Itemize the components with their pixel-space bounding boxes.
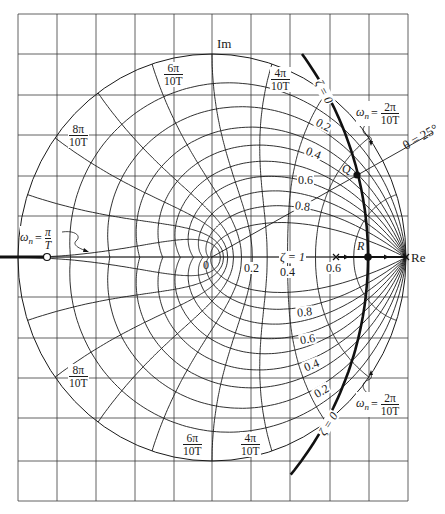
zeta-one-label: ζ = 1	[279, 251, 306, 263]
freq-num: 4π	[244, 432, 256, 444]
origin-label: 0	[203, 259, 209, 271]
wn-pi-over-T-label: ωn = π T	[20, 226, 52, 251]
real-axis-label: Re	[411, 251, 425, 264]
equals-sign: =	[371, 106, 378, 121]
arrow-right-icon	[384, 255, 389, 260]
freq-den: 10T	[241, 445, 260, 457]
freq-label-4pi-upper: 4π 10T	[270, 67, 291, 92]
freq-label-6pi-lower: 6π 10T	[182, 432, 203, 457]
freq-den: 10T	[69, 377, 88, 389]
zeta-label-0.8-upper: 0.8	[293, 199, 312, 213]
freq-label-8pi-lower: 8π 10T	[68, 364, 89, 389]
freq-den: 10T	[69, 136, 88, 148]
wn-2pi-label-lower: ωn = 2π 10T	[356, 392, 400, 417]
freq-num: 6π	[186, 432, 198, 444]
wn-2pi-label-upper: ωn = 2π 10T	[356, 101, 400, 126]
freq-num: 6π	[167, 62, 179, 74]
zeta-label-0.6-upper: 0.6	[297, 174, 314, 186]
wn-pi-arrow-icon	[62, 232, 87, 251]
freq-den: 10T	[164, 75, 183, 87]
freq-num: 4π	[274, 67, 286, 79]
zeta-label-0.8-lower: 0.8	[295, 305, 313, 319]
omega-symbol: ωn	[356, 396, 369, 412]
z-plane-chart	[0, 0, 445, 514]
point-Q-label: Q	[342, 163, 351, 175]
imag-axis-label: Im	[217, 37, 231, 50]
omega-symbol: ωn	[356, 105, 369, 121]
fraction: 2π 10T	[380, 101, 401, 126]
freq-label-8pi-upper: 8π 10T	[68, 123, 89, 148]
freq-den: 10T	[183, 445, 202, 457]
open-circle-zero	[44, 254, 51, 261]
omega-symbol: ωn	[20, 230, 33, 246]
point-Q	[353, 171, 360, 178]
real-tick-0.4: 0.4	[279, 266, 296, 278]
freq-num: 8π	[72, 364, 84, 376]
zeta-label-0.6-lower: 0.6	[298, 332, 317, 347]
fraction: 2π 10T	[380, 392, 401, 417]
freq-label-4pi-lower: 4π 10T	[240, 432, 261, 457]
real-tick-0.6: 0.6	[325, 262, 342, 274]
real-tick-0.2: 0.2	[243, 262, 260, 274]
freq-num: 8π	[72, 123, 84, 135]
fraction: π T	[44, 226, 52, 251]
point-R-label: R	[357, 240, 364, 252]
equals-sign: =	[371, 397, 378, 412]
freq-den: 10T	[271, 80, 290, 92]
point-R	[364, 253, 372, 261]
arrow-head-icon	[83, 248, 89, 252]
freq-label-6pi-upper: 6π 10T	[163, 62, 184, 87]
arrow-right-icon	[344, 255, 349, 260]
equals-sign: =	[35, 231, 42, 246]
